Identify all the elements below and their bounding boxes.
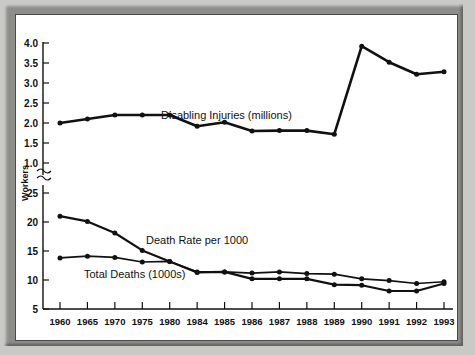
death-rate-per-1000-point xyxy=(250,276,255,281)
death-rate-per-1000-point xyxy=(112,231,117,236)
disabling-injuries-point xyxy=(442,69,447,74)
y-axis-title-layer: Workers xyxy=(20,165,30,201)
axis-break-icon xyxy=(37,169,51,180)
x-tick-label: 1993 xyxy=(433,316,454,327)
disabling-injuries-point xyxy=(85,117,90,122)
y-tick-label-upper: 1.5 xyxy=(24,138,38,149)
disabling-injuries-point xyxy=(112,113,117,118)
series-layer xyxy=(60,46,444,291)
y-axis-title: Workers xyxy=(20,165,30,201)
x-tick-label: 1984 xyxy=(187,316,209,327)
death-rate-per-1000-point xyxy=(85,219,90,224)
y-tick-label-upper: 3.0 xyxy=(24,78,38,89)
y-tick-label-upper: 3.5 xyxy=(24,58,38,69)
y-tick-label-upper: 4.0 xyxy=(24,38,38,49)
death-rate-per-1000-point xyxy=(414,289,419,294)
total-deaths-point xyxy=(304,271,309,276)
chart-panel: 1.01.52.02.53.03.54.0510152025 196019651… xyxy=(15,14,458,341)
y-tick-label-upper: 2.5 xyxy=(24,98,38,109)
total-deaths-point xyxy=(387,278,392,283)
y-tick-label-lower: 5 xyxy=(32,304,38,315)
disabling-injuries-point xyxy=(332,132,337,137)
total-deaths-point xyxy=(195,269,200,274)
x-tick-label: 1965 xyxy=(77,316,99,327)
x-tick-label: 1992 xyxy=(406,316,427,327)
series-annotation: Total Deaths (1000s) xyxy=(84,268,186,280)
x-tick-label: 1986 xyxy=(241,316,262,327)
total-deaths-point xyxy=(414,281,419,286)
death-rate-per-1000-point xyxy=(140,248,145,253)
y-tick-label-lower: 20 xyxy=(27,217,39,228)
x-tick-label: 1988 xyxy=(296,316,317,327)
total-deaths-point xyxy=(222,269,227,274)
y-tick-label-lower: 15 xyxy=(27,246,39,257)
axis-break-squiggle-top xyxy=(37,169,51,173)
disabling-injuries-point xyxy=(140,113,145,118)
total-deaths-point xyxy=(58,255,63,260)
total-deaths-point xyxy=(85,254,90,259)
y-tick-label-upper: 2.0 xyxy=(24,118,38,129)
death-rate-per-1000-point xyxy=(387,289,392,294)
axis-break-squiggle-bottom xyxy=(37,176,51,180)
total-deaths-point xyxy=(250,271,255,276)
x-tick-label: 1990 xyxy=(351,316,372,327)
disabling-injuries-point xyxy=(414,72,419,77)
total-deaths-point xyxy=(332,272,337,277)
line-chart: 1.01.52.02.53.03.54.0510152025 196019651… xyxy=(16,15,457,340)
total-deaths-point xyxy=(442,279,447,284)
series-annotation: Disabling Injuries (millions) xyxy=(161,109,292,121)
death-rate-per-1000-point xyxy=(359,283,364,288)
death-rate-per-1000-point xyxy=(277,276,282,281)
x-tick-label: 1991 xyxy=(379,316,401,327)
disabling-injuries-point xyxy=(304,128,309,133)
death-rate-per-1000-point xyxy=(332,282,337,287)
x-tick-label: 1960 xyxy=(49,316,70,327)
data-point-markers-layer xyxy=(58,44,447,294)
disabling-injuries-point xyxy=(359,44,364,49)
disabling-injuries-point xyxy=(58,121,63,126)
series-annotation: Death Rate per 1000 xyxy=(146,234,248,246)
x-tick-label: 1985 xyxy=(214,316,236,327)
x-tick-label: 1970 xyxy=(104,316,125,327)
series-annotations-layer: Disabling Injuries (millions)Death Rate … xyxy=(84,109,292,280)
total-deaths-point xyxy=(277,269,282,274)
disabling-injuries-point xyxy=(195,124,200,129)
x-tick-label: 1980 xyxy=(159,316,180,327)
total-deaths-point xyxy=(359,276,364,281)
x-tick-label: 1975 xyxy=(132,316,154,327)
y-tick-label-lower: 10 xyxy=(27,275,39,286)
x-tick-labels-layer: 1960196519701975198019841985198619871988… xyxy=(49,316,454,327)
total-deaths-point xyxy=(140,260,145,265)
disabling-injuries-point xyxy=(277,128,282,133)
x-tick-label: 1989 xyxy=(324,316,345,327)
disabling-injuries-point xyxy=(250,129,255,134)
disabling-injuries-line xyxy=(60,46,444,134)
total-deaths-point xyxy=(167,259,172,264)
total-deaths-point xyxy=(112,255,117,260)
disabling-injuries-point xyxy=(387,60,392,65)
x-tick-label: 1987 xyxy=(269,316,290,327)
death-rate-per-1000-point xyxy=(58,214,63,219)
death-rate-per-1000-point xyxy=(304,276,309,281)
picture-frame-outer: 1.01.52.02.53.03.54.0510152025 196019651… xyxy=(4,4,463,346)
